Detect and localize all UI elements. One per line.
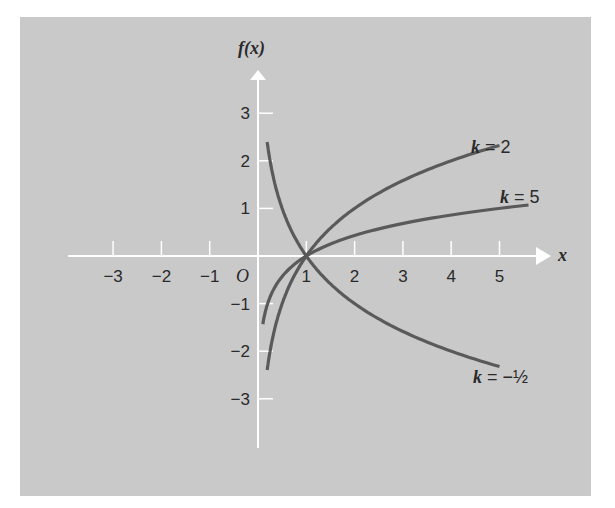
x-tick-label: 4 [446,267,455,286]
series-label-value: = −½ [482,367,528,387]
x-tick-label: −2 [152,267,171,286]
series-label: k = 5 [500,187,540,207]
y-tick-label: −3 [231,390,250,409]
curves: k = 2k = 5k = −½ [263,137,540,387]
x-tick-label: −3 [103,267,122,286]
origin-label: O [236,266,249,286]
x-axis-label: x [557,245,567,265]
y-axis-arrow-icon [250,70,266,80]
series-label: k = −½ [473,367,528,387]
series-label-k: k [471,137,480,157]
chart-svg: −3−2−112345321−1−2−3 k = 2k = 5k = −½ f(… [0,0,615,508]
y-axis-label: f(x) [238,38,265,59]
curve-k-5 [263,205,529,324]
series-label-value: = 2 [480,137,511,157]
series-label: k = 2 [471,137,511,157]
y-tick-label: 3 [241,104,250,123]
y-tick-label: −2 [231,342,250,361]
y-tick-label: 2 [241,152,250,171]
x-tick-label: 5 [495,267,504,286]
series-label-k: k [473,367,482,387]
x-tick-label: 2 [350,267,359,286]
series-label-k: k [500,187,509,207]
labels: f(x) x O [236,38,567,286]
curve-k [267,142,499,367]
x-tick-label: −1 [200,267,219,286]
y-tick-label: 1 [241,199,250,218]
y-axis-label-text: f(x) [238,38,265,59]
y-tick-label: −1 [231,295,250,314]
x-tick-label: 3 [398,267,407,286]
x-axis-arrow-icon [536,247,551,265]
series-label-value: = 5 [509,187,540,207]
x-tick-label: 1 [302,267,311,286]
